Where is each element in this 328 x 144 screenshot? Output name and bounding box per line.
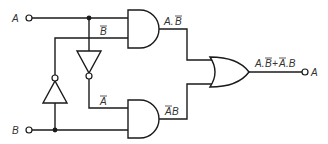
and2-output-label: A B [164, 106, 179, 117]
input-b-label: B [12, 125, 19, 136]
svg-text:.B: .B [286, 58, 296, 69]
not-b-bubble [52, 75, 58, 81]
svg-text:A: A [278, 58, 286, 69]
input-a-label: A [11, 13, 19, 24]
svg-text:A.: A. [254, 58, 264, 69]
or-output-label: A. B + A .B [254, 58, 296, 69]
svg-text:B: B [265, 58, 272, 69]
svg-text:A.: A. [163, 16, 173, 27]
svg-text:A: A [99, 96, 107, 107]
and1-gate [128, 10, 159, 48]
and1-output-label: A. B [163, 16, 182, 27]
svg-text:B: B [175, 16, 182, 27]
or-gate [210, 57, 249, 87]
output-label: A [310, 67, 318, 78]
svg-text:B: B [100, 26, 107, 37]
a-bar-label: A [99, 96, 107, 107]
wire-and1-to-or [159, 29, 213, 60]
logic-circuit-diagram: A B B A A. B A B A. B + A .B A [0, 0, 328, 144]
svg-text:+: + [272, 58, 278, 69]
output-terminal [302, 69, 308, 75]
and2-gate [128, 100, 159, 138]
not-b-gate [43, 81, 67, 103]
b-bar-label: B [100, 26, 107, 37]
not-a-bubble [86, 73, 92, 79]
input-b-terminal [26, 127, 32, 133]
svg-text:B: B [172, 106, 179, 117]
svg-text:A: A [164, 106, 172, 117]
not-a-gate [77, 51, 101, 73]
input-a-terminal [26, 15, 32, 21]
wire-a-bar-to-and2 [89, 79, 128, 108]
